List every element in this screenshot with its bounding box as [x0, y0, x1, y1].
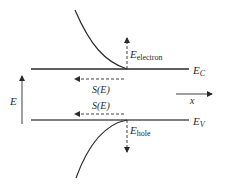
electron-dos-curve: [75, 10, 127, 69]
position-axis-label: x: [189, 95, 195, 106]
lower-dos-label: S(E): [92, 100, 110, 112]
conduction-band-label: EC: [192, 64, 206, 78]
energy-axis-label: E: [9, 95, 17, 107]
upper-dos-label: S(E): [92, 84, 110, 96]
electron-energy-label: Eelectron: [129, 48, 163, 62]
band-diagram: EC Eelectron S(E) E x S(E) EV Ehole: [0, 0, 226, 187]
hole-dos-curve: [76, 120, 127, 178]
hole-energy-label: Ehole: [129, 124, 151, 138]
valence-band-label: EV: [192, 115, 206, 129]
